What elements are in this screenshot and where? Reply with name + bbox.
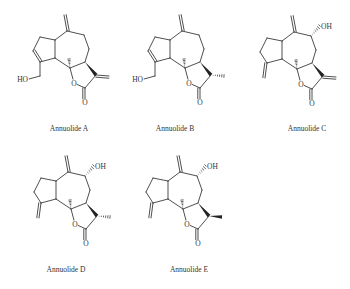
compound-label-d: Annuolide D: [47, 265, 86, 274]
ring-oxygen-label: O: [298, 80, 304, 89]
carbonyl-oxygen-label: O: [309, 99, 315, 108]
structures-figure: HOOOHOOOOHOOOHOOOHOO: [0, 0, 350, 289]
ring-oxygen-label: O: [72, 220, 78, 229]
ring-oxygen-label: O: [184, 220, 190, 229]
structure-b: HOOO: [0, 0, 224, 107]
carbonyl-oxygen-label: O: [197, 98, 203, 107]
carbonyl-oxygen-label: O: [195, 239, 201, 248]
carbonyl-oxygen-label: O: [83, 239, 89, 248]
compound-label-b: Annuolide B: [156, 124, 195, 133]
ring-oxygen-label: O: [71, 79, 77, 88]
hydroxyl-label: OH: [207, 162, 218, 171]
hydroxyl-label: HO: [17, 75, 28, 84]
compound-label-c: Annuolide C: [288, 124, 327, 133]
hydroxyl-label: HO: [132, 75, 143, 84]
hydroxyl-label: OH: [321, 22, 332, 31]
compound-label-e: Annuolide E: [170, 265, 208, 274]
carbonyl-oxygen-label: O: [82, 98, 88, 107]
structure-a: HOOO: [0, 0, 109, 107]
compound-label-a: Annuolide A: [50, 124, 89, 133]
ring-oxygen-label: O: [186, 79, 192, 88]
hydroxyl-label: OH: [95, 162, 106, 171]
structure-c: OHOO: [0, 0, 336, 108]
